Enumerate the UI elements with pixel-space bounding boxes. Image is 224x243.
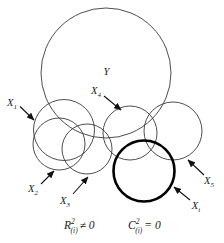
label-x3: X3 <box>59 195 70 209</box>
arrow-x4-icon <box>104 96 121 110</box>
formula-r-squared: R2(i)≠ 0 <box>63 217 95 235</box>
label-y: Y <box>104 66 111 77</box>
circle-x1 <box>34 100 95 161</box>
arrow-x3-icon <box>73 177 88 194</box>
label-x1: X1 <box>6 97 17 111</box>
circle-x5 <box>144 102 202 160</box>
label-xi: Xi <box>191 200 200 214</box>
circle-x3 <box>62 124 112 174</box>
arrow-x5-icon <box>188 160 204 175</box>
venn-diagram-figure: Y X1 X2 X3 X4 X5 Xi R2(i)≠ 0 C2(i)= 0 <box>0 0 224 243</box>
formula-c-squared: C2(i)= 0 <box>128 217 161 235</box>
label-x5: X5 <box>203 175 214 189</box>
arrow-x2-icon <box>41 171 54 184</box>
arrow-x1-icon <box>20 107 34 121</box>
arrow-xi-icon <box>174 187 190 200</box>
label-x4: X4 <box>90 85 101 99</box>
label-x2: X2 <box>27 183 38 197</box>
circle-xi-bold <box>114 141 175 202</box>
diagram-canvas: Y X1 X2 X3 X4 X5 Xi R2(i)≠ 0 C2(i)= 0 <box>0 0 224 243</box>
